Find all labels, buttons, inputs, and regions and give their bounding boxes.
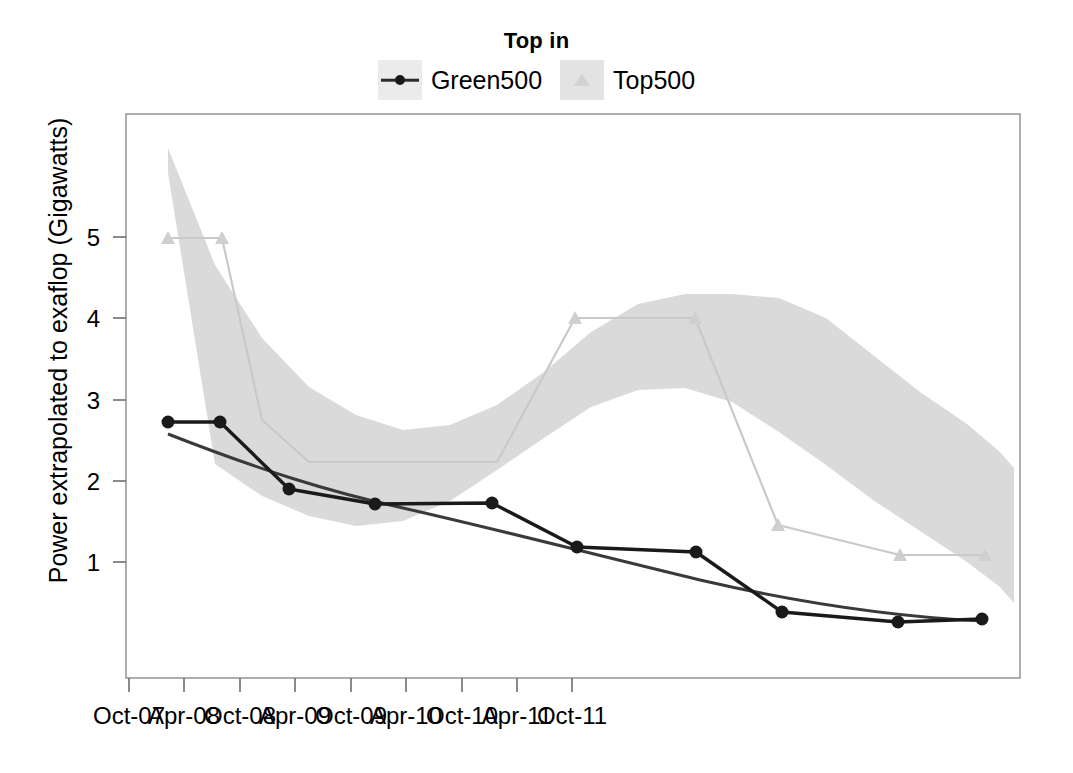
y-tick-label-3: 3: [58, 387, 100, 415]
y-tick-label-4: 4: [58, 305, 100, 333]
chart-svg: [0, 0, 1073, 773]
top500-ribbon: [168, 148, 1014, 603]
y-axis-title: Power extrapolated to exaflop (Gigawatts…: [44, 71, 73, 631]
chart-plot-area: Power extrapolated to exaflop (Gigawatts…: [0, 0, 1073, 773]
y-tick-label-2: 2: [58, 468, 100, 496]
y-tick-label-1: 1: [58, 549, 100, 577]
y-tick-label-5: 5: [58, 224, 100, 252]
x-axis-ticks: [129, 678, 572, 692]
x-tick-label-oct-11: Oct-11: [512, 702, 632, 730]
y-axis-ticks: [113, 237, 126, 562]
